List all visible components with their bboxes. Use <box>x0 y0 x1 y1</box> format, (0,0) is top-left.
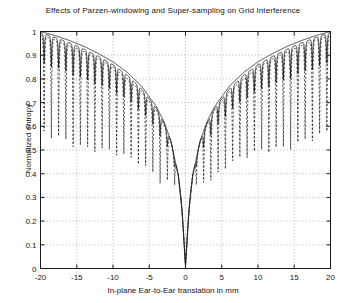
grid-lines <box>41 32 331 269</box>
y-axis-label: Normalized entropy <box>24 59 33 219</box>
svg-text:-10: -10 <box>107 273 119 282</box>
figure-container: Effects of Parzen-windowing and Super-sa… <box>0 0 346 303</box>
data-series-layer <box>41 32 331 267</box>
svg-text:0: 0 <box>183 273 188 282</box>
svg-text:-5: -5 <box>146 273 154 282</box>
svg-text:20: 20 <box>326 273 335 282</box>
svg-text:15: 15 <box>290 273 299 282</box>
plot-canvas: -20-15-10-50510152000.10.20.30.40.50.60.… <box>0 0 346 303</box>
svg-text:0.1: 0.1 <box>25 241 37 250</box>
svg-text:10: 10 <box>254 273 263 282</box>
series-line-parzen-windowed-and-super-sampled <box>41 32 331 267</box>
svg-text:0: 0 <box>32 265 37 274</box>
svg-text:1: 1 <box>32 28 37 37</box>
x-axis-label: In-plane Ear-to-Ear translation in mm <box>0 286 346 295</box>
svg-text:-20: -20 <box>35 273 47 282</box>
svg-text:5: 5 <box>220 273 225 282</box>
svg-text:-15: -15 <box>71 273 83 282</box>
